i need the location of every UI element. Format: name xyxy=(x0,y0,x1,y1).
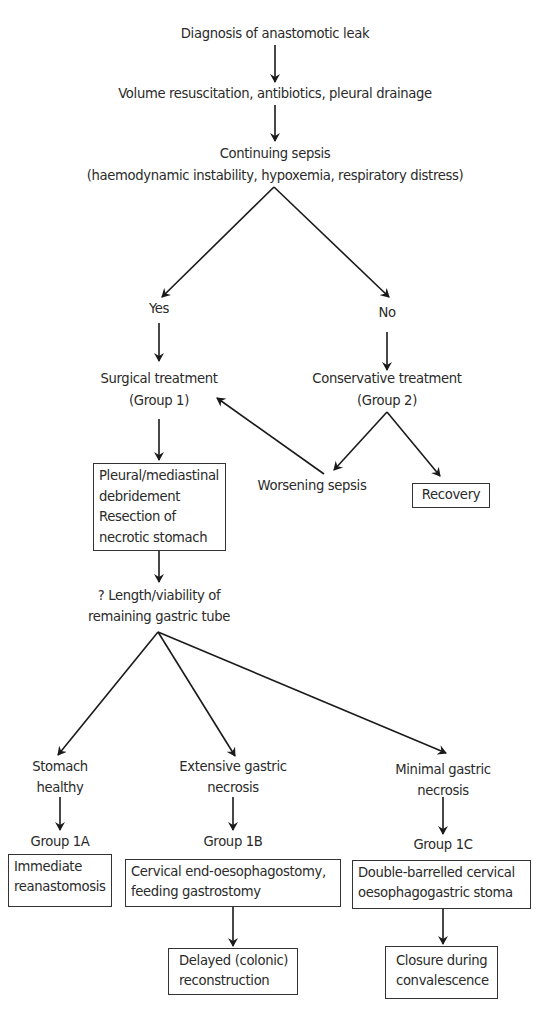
group-1b-action-box: Cervical end-oesophagostomy, feeding gas… xyxy=(125,859,341,907)
group-1b-label: Group 1B xyxy=(193,832,273,852)
group-1c-label: Group 1C xyxy=(403,835,483,855)
arrow-sepsis-to-yes xyxy=(162,187,274,297)
arrow-tube-to-minimal xyxy=(158,632,446,753)
recovery-box: Recovery xyxy=(412,483,490,508)
arrow-tube-to-extensive xyxy=(158,632,235,756)
branch-condition-1b: Extensive gastric necrosis xyxy=(163,756,303,798)
group-1a-label: Group 1A xyxy=(20,832,100,852)
diagnosis-node: Diagnosis of anastomotic leak xyxy=(125,24,425,44)
arrow-sepsis-to-no xyxy=(274,187,389,297)
arrow-conservative-to-recovery xyxy=(387,412,440,476)
group-1a-action-box: Immediate reanastomosis xyxy=(8,854,112,907)
continuing-sepsis-node: Continuing sepsis (haemodynamic instabil… xyxy=(60,143,490,187)
arrow-conservative-to-worsening xyxy=(334,412,387,470)
resuscitation-node: Volume resuscitation, antibiotics, pleur… xyxy=(75,84,475,104)
gastric-tube-node: ? Length/viability of remaining gastric … xyxy=(79,585,239,627)
group-1b-followup-box: Delayed (colonic) reconstruction xyxy=(168,948,298,995)
no-label: No xyxy=(357,303,417,323)
branch-condition-1c: Minimal gastric necrosis xyxy=(378,759,508,801)
group-1c-followup-box: Closure during convalescence xyxy=(385,946,498,999)
yes-label: Yes xyxy=(129,299,189,319)
arrow-tube-to-healthy xyxy=(58,632,158,755)
conservative-treatment-node: Conservative treatment (Group 2) xyxy=(302,368,472,412)
branch-condition-1a: Stomach healthy xyxy=(10,756,110,798)
surgical-treatment-node: Surgical treatment (Group 1) xyxy=(84,368,234,412)
debridement-box: Pleural/mediastinal debridement Resectio… xyxy=(93,463,226,551)
worsening-sepsis-node: Worsening sepsis xyxy=(250,476,374,496)
group-1c-action-box: Double-barrelled cervical oesophagogastr… xyxy=(352,860,531,909)
